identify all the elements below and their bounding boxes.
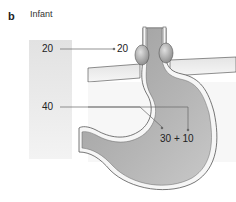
gastric-components-label: 30 + 10 [160,133,194,144]
sphincter-right [159,43,173,63]
stomach-diagram [0,0,236,202]
sphincter-left [135,45,149,65]
les-pressure-left-label: 20 [42,43,53,54]
les-pressure-right-label: 20 [117,43,128,54]
gastric-reference-label: 40 [42,101,53,112]
